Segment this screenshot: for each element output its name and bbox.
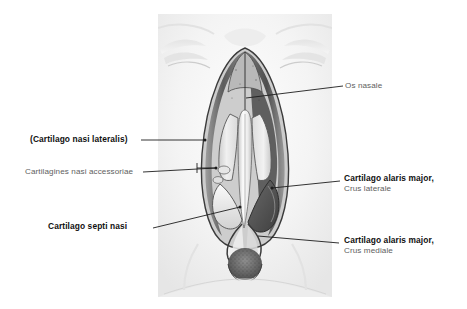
label-os-nasale: Os nasale xyxy=(345,81,382,91)
label-cartilago-septi-nasi: Cartilago septi nasi xyxy=(48,222,127,232)
anatomical-illustration xyxy=(158,14,332,297)
label-crus-laterale-line1: Cartilago alaris major, xyxy=(344,174,434,184)
nose-dissection-drawing xyxy=(158,14,332,297)
label-cartilagines-nasi-accessoriae-line1: Cartilagines nasi accessoriae xyxy=(25,167,133,177)
figure-root: Os nasale (Cartilago nasi lateralis) Car… xyxy=(0,0,467,309)
label-crus-mediale-line1: Cartilago alaris major, xyxy=(344,236,434,246)
label-crus-laterale-line2: Crus laterale xyxy=(344,184,434,194)
label-cartilago-nasi-lateralis-line1: (Cartilago nasi lateralis) xyxy=(30,135,128,145)
label-os-nasale-line1: Os nasale xyxy=(345,81,382,91)
label-crus-mediale: Cartilago alaris major, Crus mediale xyxy=(344,236,434,255)
label-cartilago-nasi-lateralis: (Cartilago nasi lateralis) xyxy=(30,135,128,145)
label-crus-laterale: Cartilago alaris major, Crus laterale xyxy=(344,174,434,193)
label-cartilago-septi-nasi-line1: Cartilago septi nasi xyxy=(48,222,127,232)
label-cartilagines-nasi-accessoriae: Cartilagines nasi accessoriae xyxy=(25,167,133,177)
label-crus-mediale-line2: Crus mediale xyxy=(344,246,434,256)
